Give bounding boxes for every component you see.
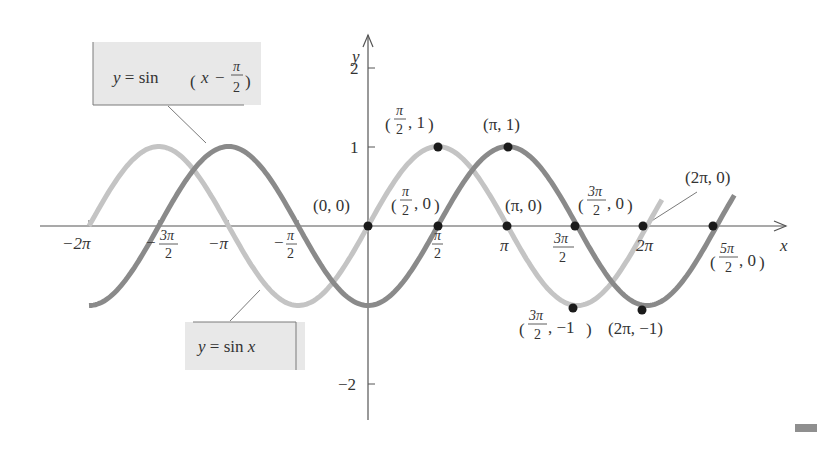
svg-text:, 1: , 1 — [408, 113, 425, 132]
x-axis-label: x — [779, 236, 788, 255]
y-tick-1: 1 — [350, 138, 359, 157]
svg-text:2: 2 — [434, 246, 441, 261]
svg-text:x: x — [200, 68, 209, 87]
x-tick-pi: π — [500, 236, 509, 255]
svg-text:2: 2 — [402, 203, 409, 218]
label-pi-1: (π, 1) — [483, 115, 520, 134]
svg-text:2: 2 — [233, 80, 240, 95]
label-2pi-minus-1: (2π, −1) — [608, 319, 663, 338]
svg-text:3π: 3π — [587, 184, 603, 199]
svg-text:): ) — [586, 320, 592, 339]
svg-text:π: π — [396, 103, 404, 118]
label-origin: (0, 0) — [313, 196, 350, 215]
x-tick-minus-2pi: −2π — [62, 234, 91, 253]
label-half-pi-0: ( π 2 , 0 ) — [391, 184, 440, 218]
x-tick-pi-2: π 2 — [432, 228, 443, 261]
label-5pi-2-0: ( 5π 2 , 0 ) — [710, 241, 765, 275]
svg-text:π: π — [233, 59, 241, 74]
x-tick-minus-pi-2: − π 2 — [274, 228, 297, 261]
svg-text:3π: 3π — [159, 228, 175, 243]
svg-text:−: − — [146, 233, 156, 252]
svg-text:): ) — [428, 115, 434, 134]
equation-sin: y = sin x — [196, 337, 256, 356]
svg-text:, 0: , 0 — [607, 194, 624, 213]
svg-text:2: 2 — [725, 260, 732, 275]
svg-text:, 0: , 0 — [739, 251, 756, 270]
svg-text:π: π — [287, 228, 295, 243]
svg-text:2: 2 — [165, 246, 172, 261]
svg-text:3π: 3π — [553, 231, 569, 246]
svg-text:): ) — [434, 196, 440, 215]
svg-text:): ) — [759, 253, 765, 272]
svg-text:3π: 3π — [528, 308, 544, 323]
svg-text:2: 2 — [287, 246, 294, 261]
sine-graph: y x 2 1 −2 −2π − 3π 2 −π − π 2 π 2 π 3π … — [0, 0, 829, 450]
svg-text:(: ( — [710, 253, 716, 272]
svg-text:): ) — [245, 72, 251, 91]
label-pi-0: (π, 0) — [505, 196, 542, 215]
y-tick-2: 2 — [350, 59, 359, 78]
svg-text:(: ( — [519, 320, 525, 339]
svg-text:2: 2 — [593, 203, 600, 218]
label-half-pi-1: ( π 2 , 1 ) — [385, 103, 434, 137]
x-tick-minus-pi: −π — [208, 234, 228, 253]
svg-text:−: − — [215, 68, 225, 87]
x-tick-3pi-2: 3π 2 — [553, 231, 574, 265]
x-tick-2pi: 2π — [636, 236, 654, 255]
svg-text:): ) — [627, 196, 633, 215]
svg-text:y = sin: y = sin — [111, 68, 159, 87]
svg-text:5π: 5π — [720, 241, 735, 256]
y-tick-minus-2: −2 — [338, 375, 356, 394]
svg-text:2: 2 — [559, 250, 566, 265]
svg-text:, −1: , −1 — [548, 318, 575, 337]
x-tick-minus-3pi-2: − 3π 2 — [146, 228, 178, 261]
svg-text:π: π — [434, 228, 442, 243]
svg-text:(: ( — [391, 196, 397, 215]
scroll-indicator — [795, 424, 817, 432]
svg-text:π: π — [402, 184, 410, 199]
label-2pi-0: (2π, 0) — [685, 168, 730, 187]
label-3pi-2-minus-1: ( 3π 2 , −1 ) — [519, 308, 592, 342]
svg-text:(: ( — [578, 196, 584, 215]
svg-text:2: 2 — [534, 327, 541, 342]
svg-text:(: ( — [385, 115, 391, 134]
svg-text:2: 2 — [396, 122, 403, 137]
label-3pi-2-0: ( 3π 2 , 0 ) — [578, 184, 633, 218]
svg-text:−: − — [274, 233, 284, 252]
svg-text:, 0: , 0 — [414, 194, 431, 213]
svg-text:(: ( — [190, 72, 196, 91]
